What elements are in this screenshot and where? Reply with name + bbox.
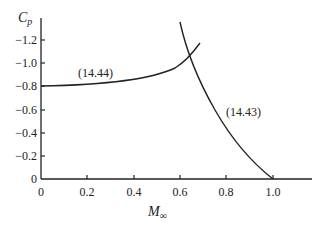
x-tick-labels: 0 0.2 0.4 0.6 0.8 1.0 xyxy=(38,185,281,199)
y-tick-label: −0.2 xyxy=(15,149,37,163)
y-tick-labels: −1.2 −1.0 −0.8 −0.6 −0.4 −0.2 0 xyxy=(15,33,37,186)
x-tick-label: 0.4 xyxy=(127,185,142,199)
x-axis-title: M∞ xyxy=(147,204,167,221)
curve-label-14-43: (14.43) xyxy=(226,105,261,119)
x-tick-label: 1.0 xyxy=(266,185,281,199)
x-tick-label: 0.6 xyxy=(173,185,188,199)
y-tick-label: −0.6 xyxy=(15,103,37,117)
x-tick-label: 0.2 xyxy=(80,185,95,199)
y-tick-label: −0.4 xyxy=(15,126,37,140)
curve-14-44 xyxy=(41,43,200,86)
chart-canvas: −1.2 −1.0 −0.8 −0.6 −0.4 −0.2 0 0 0.2 0.… xyxy=(0,0,317,226)
y-tick-label: −1.0 xyxy=(15,56,37,70)
curve-label-14-44: (14.44) xyxy=(78,66,113,80)
y-tick-label: 0 xyxy=(31,172,37,186)
y-tick-label: −1.2 xyxy=(15,33,37,47)
x-tick-label: 0 xyxy=(38,185,44,199)
curve-14-43 xyxy=(180,22,273,179)
x-tick-label: 0.8 xyxy=(219,185,234,199)
y-tick-label: −0.8 xyxy=(15,79,37,93)
y-axis-title: Cp xyxy=(18,10,32,27)
